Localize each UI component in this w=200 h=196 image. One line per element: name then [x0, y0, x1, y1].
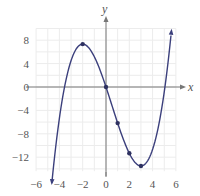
y-tick-label: 4: [24, 58, 30, 70]
y-tick-label: −12: [12, 151, 29, 163]
x-tick-label: −4: [54, 178, 66, 190]
data-point: [104, 85, 108, 89]
y-tick-label: 8: [24, 34, 30, 46]
x-axis-label: x: [187, 80, 194, 94]
x-tick-label: 2: [127, 178, 133, 190]
curve-arrow-right-icon: [169, 29, 174, 35]
data-point: [81, 42, 85, 46]
y-tick-label: −8: [17, 128, 29, 140]
x-tick-label: 0: [103, 178, 109, 190]
x-tick-label: −2: [77, 178, 89, 190]
x-tick-label: 4: [150, 178, 156, 190]
data-point: [115, 121, 119, 125]
data-point: [127, 151, 131, 155]
x-axis-arrow-icon: [180, 85, 186, 90]
y-axis-arrow-icon: [104, 16, 109, 22]
y-tick-label: 0: [24, 81, 30, 93]
data-point: [139, 164, 143, 168]
y-axis-label: y: [101, 2, 108, 16]
y-tick-label: −4: [17, 104, 29, 116]
function-graph: x y −6−4−20246 840−4−8−12: [0, 0, 200, 196]
x-tick-label: 6: [173, 178, 179, 190]
y-tick-labels: 840−4−8−12: [12, 34, 30, 163]
x-tick-label: −6: [30, 178, 42, 190]
